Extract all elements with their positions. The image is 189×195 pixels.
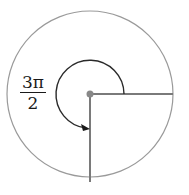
center-dot: [87, 91, 94, 98]
angle-denominator: 2: [20, 93, 46, 113]
angle-label: 3π 2: [20, 73, 46, 113]
angle-numerator: 3π: [20, 73, 46, 93]
arrowhead-icon: [81, 124, 90, 131]
